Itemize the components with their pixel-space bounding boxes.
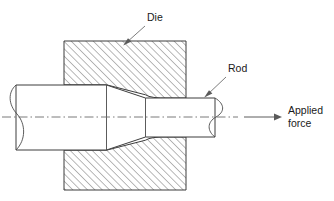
applied-force-annotation: Applied force	[244, 104, 323, 129]
applied-force-arrowhead	[274, 114, 282, 121]
rod-label: Rod	[228, 62, 247, 74]
applied-force-label-line2: force	[288, 117, 312, 129]
rod-workpiece	[10, 85, 223, 150]
die-label: Die	[147, 11, 163, 23]
applied-force-label-line1: Applied	[288, 104, 323, 116]
diagram-canvas: Die Rod Applied force	[0, 0, 334, 201]
rod-drawing-diagram: Die Rod Applied force	[0, 0, 334, 201]
die-annotation: Die	[123, 11, 163, 46]
rod-annotation: Rod	[204, 62, 247, 98]
